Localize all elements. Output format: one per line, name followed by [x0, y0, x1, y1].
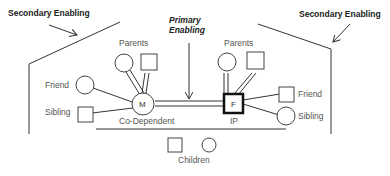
friend-left-label: Friend — [45, 80, 69, 90]
secondary-enabling-arrow-right — [333, 24, 350, 42]
friend-left-node — [76, 76, 94, 94]
ip-label: IP — [230, 116, 238, 126]
secondary-enabling-label-right: Secondary Enabling — [299, 9, 381, 19]
secondary-enabling-label-left: Secondary Enabling — [8, 8, 90, 18]
parents-right-label: Parents — [224, 38, 253, 48]
children-label: Children — [178, 155, 210, 165]
primary-enabling-label-line1: Primary — [169, 15, 202, 25]
codependent-label: Co-Dependent — [119, 116, 175, 126]
sibling-right-link — [243, 104, 279, 115]
child-daughter — [202, 138, 216, 152]
sibling-right-label: Sibling — [298, 111, 324, 121]
ip-node-letter: F — [231, 100, 236, 109]
parents-left-label: Parents — [119, 38, 148, 48]
friend-right-link — [243, 94, 280, 100]
right-parents-links — [224, 73, 256, 95]
sibling-right-node — [277, 107, 295, 125]
parent-mother-right — [218, 53, 236, 71]
family-enabling-diagram: Secondary Enabling Secondary Enabling Pr… — [0, 0, 390, 176]
parent-mother-left — [115, 54, 133, 72]
child-son — [168, 138, 182, 152]
primary-enabling-label-line2: Enabling — [169, 25, 206, 35]
friend-right-label: Friend — [298, 89, 322, 99]
parent-father-left — [141, 54, 157, 70]
parent-father-right — [247, 52, 264, 69]
left-parents-links — [126, 70, 149, 95]
codependent-node-letter: M — [139, 100, 146, 109]
friend-right-node — [279, 87, 294, 102]
secondary-enabling-arrow-left — [49, 25, 77, 35]
sibling-left-node — [78, 107, 93, 122]
marriage-link — [155, 101, 226, 106]
sibling-left-label: Sibling — [45, 107, 71, 117]
friend-left-link — [93, 88, 135, 103]
sibling-left-link — [92, 108, 133, 113]
